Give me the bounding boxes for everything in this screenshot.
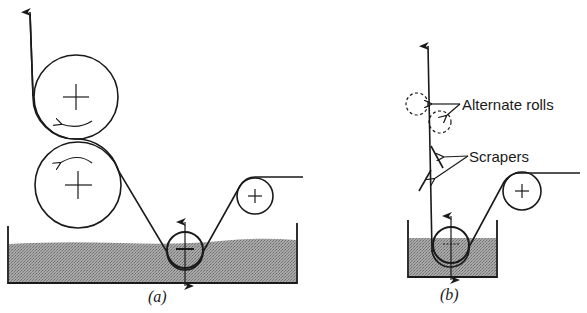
- tank-b-liquid: [409, 238, 496, 277]
- alternate-roll-1: [406, 93, 428, 115]
- rotation-arrow-icon: [61, 121, 92, 126]
- scrapers-leader: [443, 156, 468, 157]
- panel-a: (a): [8, 12, 303, 306]
- coating-diagram: (a) Alternate rolls: [0, 0, 587, 313]
- scraper-1: [431, 146, 443, 168]
- panel-b: Alternate rolls Scrapers (b): [406, 46, 580, 304]
- scrapers-label: Scrapers: [469, 148, 529, 165]
- alternate-rolls-label: Alternate rolls: [462, 96, 554, 113]
- web-b-vertical: [428, 46, 432, 252]
- bottom-roll-a: [35, 142, 121, 228]
- caption-a: (a): [148, 288, 167, 306]
- tank-a-liquid: [9, 239, 296, 282]
- guide-roll-b: [503, 172, 541, 210]
- top-roll-a: [34, 55, 118, 139]
- rotation-arrow-icon: [60, 158, 92, 164]
- caption-b: (b): [440, 286, 459, 304]
- alternate-rolls-leader: [446, 104, 460, 116]
- scraper-2: [419, 170, 431, 191]
